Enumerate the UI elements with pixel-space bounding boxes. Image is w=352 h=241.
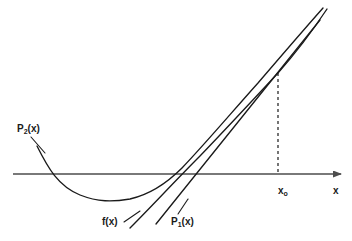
- label-p1: P1(x): [171, 217, 194, 227]
- label-x0: xo: [278, 186, 288, 196]
- label-x0-subscript: o: [284, 190, 288, 197]
- label-p2: P2(x): [17, 124, 40, 134]
- leader-line-p2: [31, 137, 45, 153]
- label-fx: f(x): [102, 217, 118, 227]
- label-p1-argument: (x): [182, 216, 194, 227]
- taylor-approximation-figure: P2(x) f(x) P1(x) xo x: [0, 0, 352, 241]
- leader-line-p1: [178, 199, 188, 214]
- label-x-axis: x: [333, 186, 339, 196]
- label-x0-main: x: [278, 185, 284, 196]
- curve-p2: [37, 8, 323, 201]
- curve-p1: [156, 20, 320, 224]
- label-p1-main: P: [171, 216, 178, 227]
- label-p2-subscript: 2: [24, 128, 28, 135]
- label-p1-subscript: 1: [178, 221, 182, 228]
- curve-fx: [130, 9, 327, 228]
- figure-canvas: [0, 0, 352, 241]
- label-p2-argument: (x): [28, 123, 40, 134]
- label-p2-main: P: [17, 123, 24, 134]
